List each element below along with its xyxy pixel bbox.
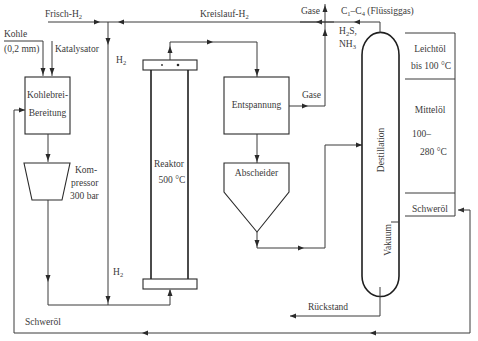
kompressor-label-1: Kom-	[75, 165, 97, 175]
c1-c4-label: C1–C4 (Flüssiggas)	[341, 6, 414, 17]
kohlebrei-label-1: Kohlebrei-	[27, 90, 68, 100]
reactor-product-line	[168, 40, 260, 78]
mitteloel-label: Mittelöl	[415, 105, 446, 115]
frisch-h2-line	[48, 20, 108, 25]
abscheider-label: Abscheider	[235, 168, 279, 178]
liquid-line	[255, 134, 260, 163]
kohlebrei-label-2: Bereitung	[29, 108, 67, 118]
abscheider-unit: Abscheider	[224, 163, 289, 232]
h2-top-label: H2	[116, 55, 126, 66]
kohle-size-label: (0,2 mm)	[4, 44, 39, 55]
katalysator-label: Katalysator	[55, 44, 100, 54]
coal-hydrogenation-flow-diagram: Frisch-H2 Kreislauf-H2 H2 H2 Kohle (0,2 …	[0, 0, 478, 341]
top-gas-line	[300, 20, 380, 25]
katalysator-feed-line	[50, 41, 55, 76]
reaktor-temp-label: 500 °C	[159, 175, 186, 185]
h2s-label: H2S,	[339, 26, 357, 37]
entspannung-label: Entspannung	[232, 100, 282, 110]
reaktor-label: Reaktor	[154, 159, 185, 169]
schweroel-product-label: Schweröl	[412, 204, 448, 214]
h2-bottom-label: H2	[113, 267, 123, 278]
vakuum-label: Vakuum	[383, 224, 393, 256]
leichtoel-label: Leichtöl	[414, 44, 446, 54]
kompressor-label-2: pressor	[71, 178, 99, 188]
gase-mid-label: Gase	[302, 90, 321, 100]
frisch-h2-label: Frisch-H2	[45, 9, 82, 20]
kohlebrei-bereitung-unit: Kohlebrei- Bereitung	[25, 77, 70, 134]
leichtoel-range-label: bis 100 °C	[411, 61, 451, 71]
schweroel-return-line	[14, 108, 470, 336]
entspannung-unit: Entspannung	[224, 77, 289, 134]
kreislauf-h2-label: Kreislauf-H2	[200, 9, 249, 20]
destillation-label: Destillation	[376, 128, 386, 173]
kompressor-unit	[24, 163, 70, 200]
mitteloel-range-1: 100–	[412, 129, 431, 139]
kohle-label: Kohle	[4, 29, 27, 39]
nh3-label: NH3	[339, 39, 356, 50]
gase-top-label: Gase	[301, 6, 320, 16]
mitteloel-range-2: 280 °C	[420, 147, 447, 157]
schweroel-return-label: Schweröl	[25, 317, 61, 327]
h2-feed-line	[106, 22, 111, 305]
rueckstand-label: Rückstand	[308, 302, 348, 312]
slurry-line	[46, 134, 51, 162]
kompressor-label-3: 300 bar	[70, 191, 100, 201]
